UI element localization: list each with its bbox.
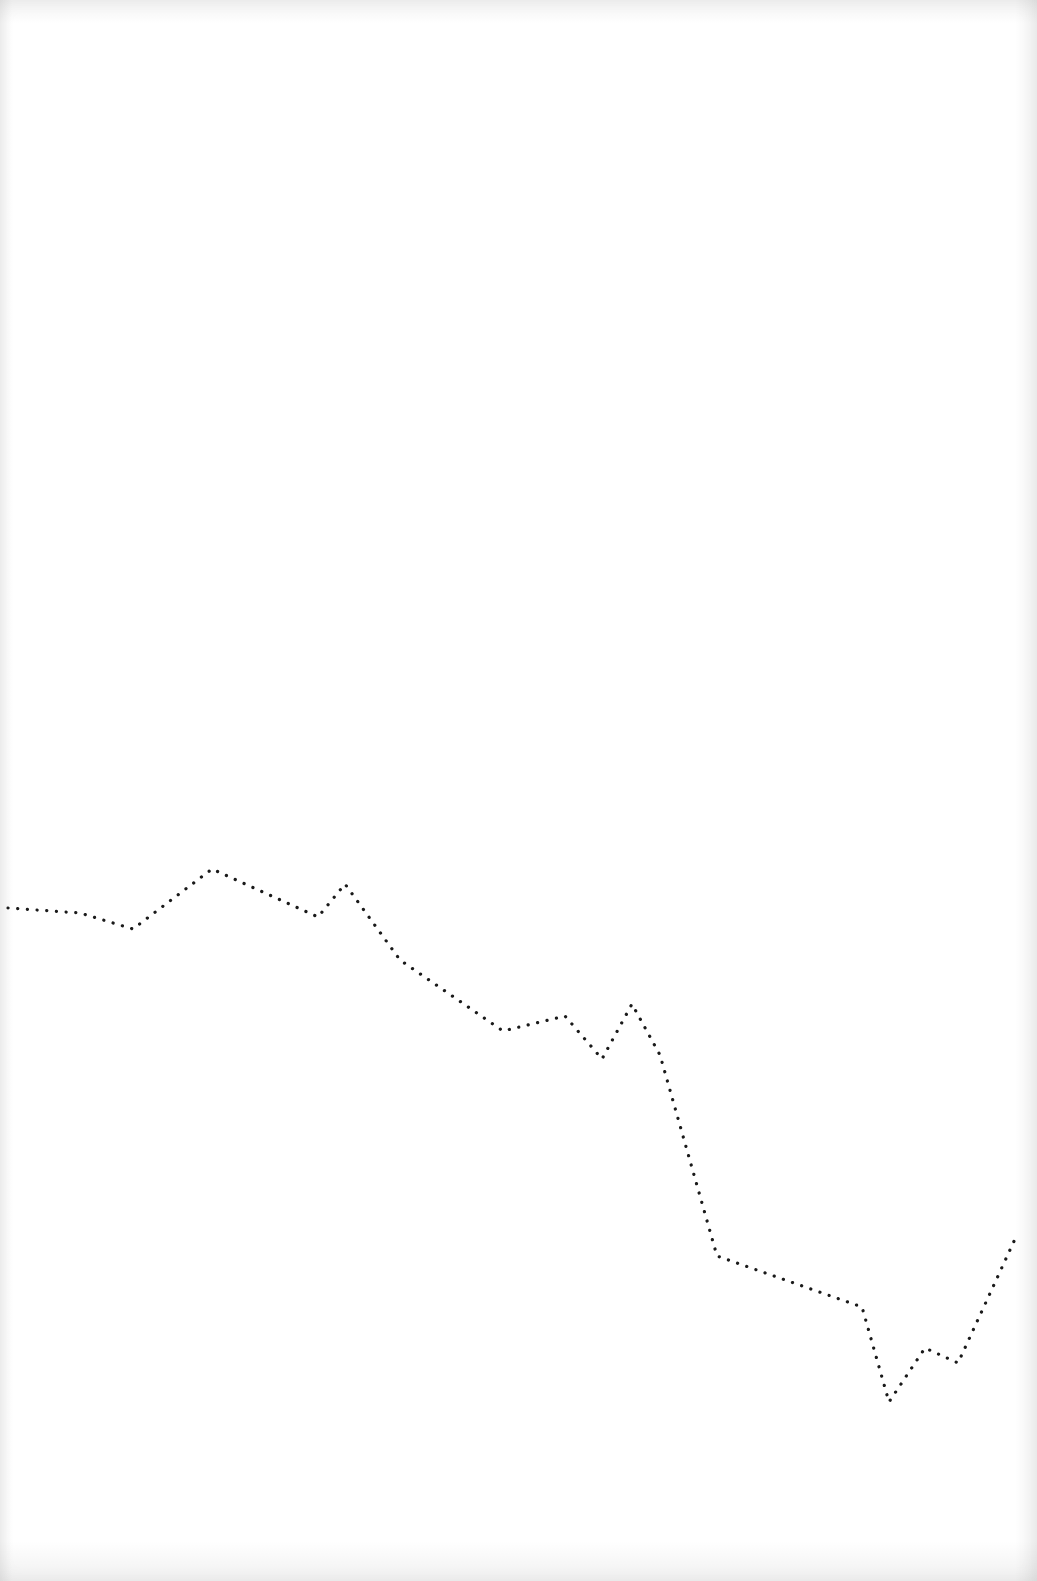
data-series-line — [8, 869, 1015, 1402]
page-background: line — [0, 0, 1037, 1581]
dotted-line-chart — [0, 0, 1037, 1581]
